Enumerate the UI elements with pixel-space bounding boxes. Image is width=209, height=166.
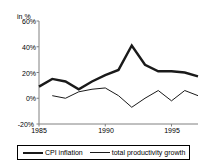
chart-legend: CPI inflation total productivity growth bbox=[17, 145, 190, 160]
chart-figure: in % 60% 40% 20% 0% -20% 1985 1990 1995 … bbox=[0, 0, 209, 166]
axes bbox=[37, 21, 199, 127]
series-line-cpi-inflation bbox=[39, 45, 198, 89]
series-lines bbox=[39, 45, 198, 107]
legend-label-cpi-inflation: CPI inflation bbox=[45, 149, 83, 156]
legend-item-total-productivity-growth: total productivity growth bbox=[90, 149, 186, 156]
legend-swatch-thick-icon bbox=[23, 152, 43, 154]
series-line-total-productivity-growth bbox=[52, 88, 198, 107]
legend-swatch-thin-icon bbox=[90, 152, 110, 153]
legend-item-cpi-inflation: CPI inflation bbox=[23, 149, 83, 156]
plot-area bbox=[0, 0, 209, 166]
legend-label-total-productivity-growth: total productivity growth bbox=[112, 149, 186, 156]
